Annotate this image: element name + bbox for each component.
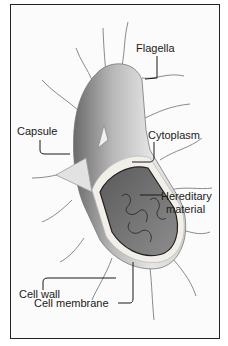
label-cell-membrane: Cell membrane <box>34 297 109 309</box>
label-capsule: Capsule <box>17 125 57 137</box>
label-hereditary-material-line1: Hereditary <box>161 190 212 202</box>
label-flagella: Flagella <box>136 42 175 54</box>
label-cytoplasm: Cytoplasm <box>148 129 200 141</box>
label-hereditary-material-line2: material <box>166 203 205 215</box>
